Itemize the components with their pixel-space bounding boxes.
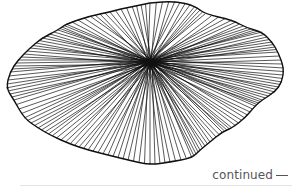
continued-label: continued: [212, 168, 288, 182]
dash-line: [276, 175, 288, 176]
bottom-divider: [20, 185, 292, 186]
radial-fan-illustration: [0, 0, 292, 172]
caption-text: continued: [212, 168, 273, 182]
